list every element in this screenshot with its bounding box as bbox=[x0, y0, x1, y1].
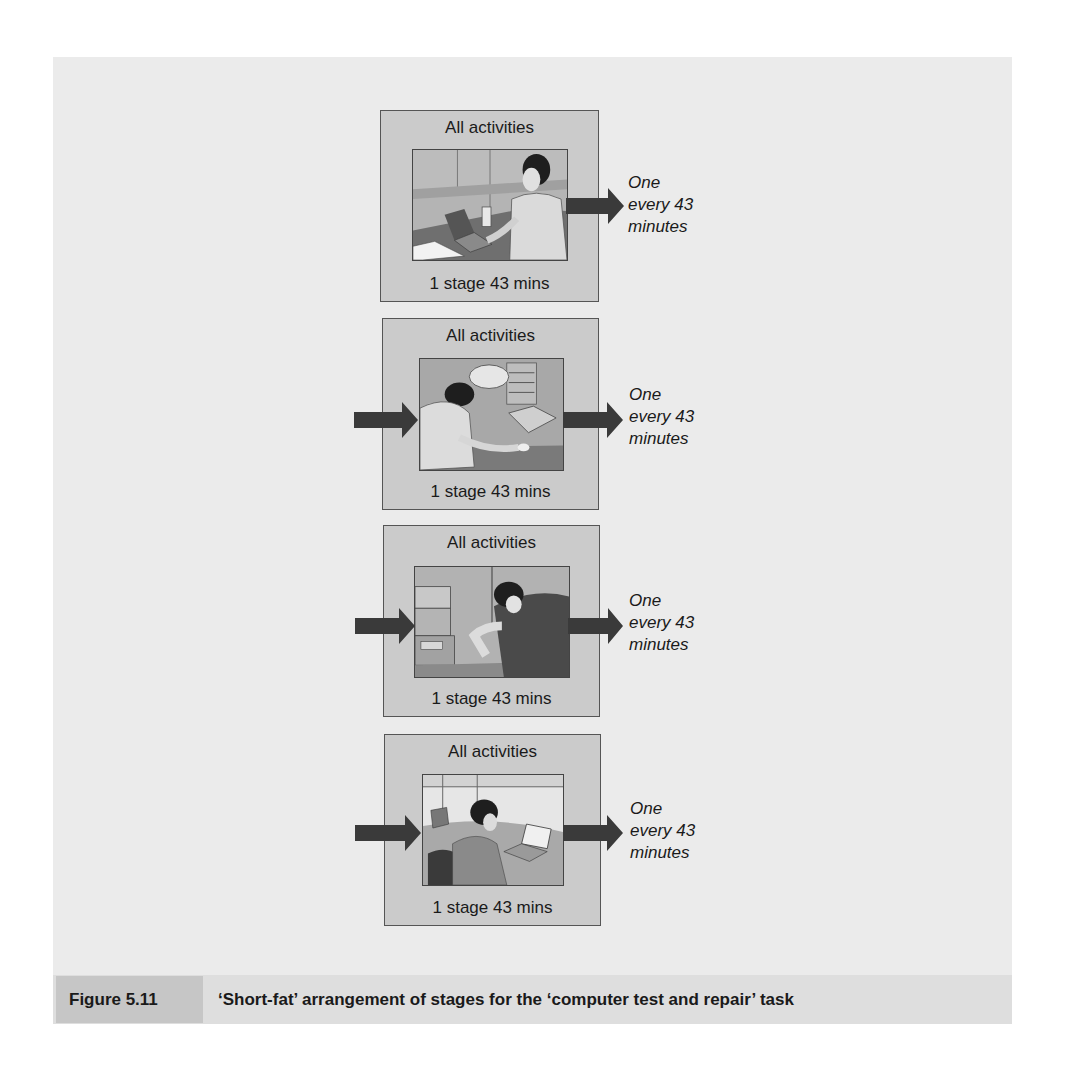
output-rate-3: One every 43 minutes bbox=[629, 590, 694, 656]
rate-line: minutes bbox=[629, 634, 694, 656]
output-arrow-4 bbox=[563, 815, 623, 851]
output-arrow-1 bbox=[566, 188, 624, 224]
rate-line: One bbox=[630, 798, 695, 820]
rate-line: minutes bbox=[629, 428, 694, 450]
stage-label: 1 stage 43 mins bbox=[381, 274, 598, 294]
stage-label: 1 stage 43 mins bbox=[384, 689, 599, 709]
output-rate-1: One every 43 minutes bbox=[628, 172, 693, 238]
stage-title: All activities bbox=[383, 326, 598, 346]
input-arrow-2 bbox=[354, 402, 418, 438]
input-arrow-3 bbox=[355, 608, 415, 644]
input-arrow-4 bbox=[355, 815, 421, 851]
photo-technician-at-laptop bbox=[412, 149, 568, 261]
output-rate-4: One every 43 minutes bbox=[630, 798, 695, 864]
rate-line: One bbox=[629, 590, 694, 612]
stage-title: All activities bbox=[384, 533, 599, 553]
rate-line: every 43 bbox=[628, 194, 693, 216]
stage-title: All activities bbox=[385, 742, 600, 762]
stage-label: 1 stage 43 mins bbox=[385, 898, 600, 918]
figure-caption: Figure 5.11 ‘Short-fat’ arrangement of s… bbox=[53, 975, 1012, 1024]
figure-number: Figure 5.11 bbox=[56, 976, 203, 1023]
output-arrow-3 bbox=[568, 608, 623, 644]
stage-title: All activities bbox=[381, 118, 598, 138]
photo-technician-repairing-hardware bbox=[419, 358, 564, 471]
rate-line: every 43 bbox=[630, 820, 695, 842]
rate-line: minutes bbox=[630, 842, 695, 864]
output-rate-2: One every 43 minutes bbox=[629, 384, 694, 450]
output-arrow-2 bbox=[563, 402, 623, 438]
rate-line: every 43 bbox=[629, 612, 694, 634]
rate-line: One bbox=[628, 172, 693, 194]
figure-caption-text: ‘Short-fat’ arrangement of stages for th… bbox=[218, 975, 794, 1024]
rate-line: minutes bbox=[628, 216, 693, 238]
photo-technician-testing-equipment bbox=[414, 566, 570, 678]
photo-operator-with-headset bbox=[422, 774, 564, 886]
rate-line: every 43 bbox=[629, 406, 694, 428]
rate-line: One bbox=[629, 384, 694, 406]
stage-label: 1 stage 43 mins bbox=[383, 482, 598, 502]
